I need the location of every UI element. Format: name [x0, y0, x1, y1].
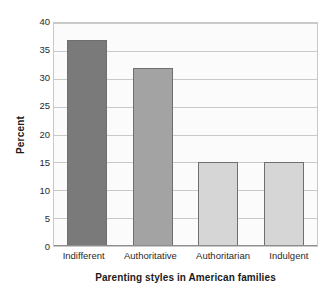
y-axis-tick-label: 5 [30, 214, 50, 224]
x-axis-tick-label: Authoritative [124, 250, 177, 262]
bar [264, 162, 304, 246]
y-axis-tick-label: 20 [30, 130, 50, 140]
bar [67, 40, 107, 246]
x-axis-tick-label: Authoritarian [196, 250, 250, 262]
x-axis-tick-label: Indulgent [269, 250, 308, 262]
y-axis-tick-label: 25 [30, 102, 50, 112]
x-axis-tick-labels: IndifferentAuthoritativeAuthoritarianInd… [53, 250, 318, 264]
x-axis-title: Parenting styles in American families [53, 272, 318, 283]
bar [133, 68, 173, 246]
bar [198, 162, 238, 246]
y-axis-tick-label: 0 [30, 242, 50, 252]
y-axis-tick-label: 35 [30, 45, 50, 55]
y-axis-tick-label: 30 [30, 74, 50, 84]
x-axis-tick-label: Indifferent [63, 250, 105, 262]
bar-series [54, 23, 317, 246]
y-axis-tick-label: 10 [30, 186, 50, 196]
plot-area [53, 22, 318, 247]
y-axis-tick-label: 40 [30, 17, 50, 27]
y-axis-tick-label: 15 [30, 158, 50, 168]
bar-chart: Percent 4035302520151050 IndifferentAuth… [0, 0, 328, 294]
y-axis-title: Percent [14, 15, 28, 255]
y-axis-tick-labels: 4035302520151050 [30, 22, 50, 247]
axis-baseline [54, 245, 317, 246]
